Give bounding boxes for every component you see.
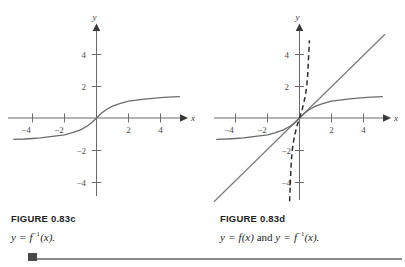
figure-formula-0-83d: y = f(x) and y = f−1(x).	[220, 228, 405, 244]
x-tick-label-2: 2	[329, 125, 334, 135]
x-tick-label-2: 2	[126, 125, 131, 135]
formula-conjunction: and	[257, 231, 273, 243]
footer-rule-line	[36, 258, 402, 260]
x-axis-label: x	[393, 113, 398, 123]
y-tick-label-2: 2	[82, 82, 87, 92]
footer-square-marker-icon	[28, 253, 37, 261]
plot-area-0-83d: x y −4 −2 2 4 4 2	[203, 0, 405, 210]
x-tick-label-4: 4	[158, 125, 163, 135]
x-tick-label--2: −2	[54, 125, 64, 135]
y-tick-label--2: −2	[76, 146, 86, 156]
plot-area-0-83c: x y −4 −2 2 4 4 2	[0, 0, 202, 210]
x-tick-label--2: −2	[257, 125, 267, 135]
formula-lhs: y	[220, 231, 225, 243]
page-footer	[0, 252, 405, 267]
y-tick-label--4: −4	[76, 178, 86, 188]
figure-formula-0-83c: y = f−1(x).	[11, 228, 201, 244]
y-axis-label: y	[92, 12, 97, 22]
x-tick-label--4: −4	[224, 125, 234, 135]
formula-argument: (x).	[40, 231, 55, 243]
formula-equals-2: =	[283, 231, 291, 243]
y-axis-arrow-icon	[296, 24, 304, 32]
x-axis-label: x	[190, 113, 195, 123]
y-axis-arrow-icon	[93, 24, 101, 32]
formula-lhs: y	[11, 231, 16, 243]
x-tick-label-4: 4	[361, 125, 366, 135]
caption-0-83c: FIGURE 0.83c y = f−1(x).	[11, 213, 201, 244]
y-tick-label-4: 4	[82, 50, 87, 60]
formula-exponent: −1	[33, 230, 40, 238]
formula-equals: =	[19, 231, 27, 243]
formula-equals: =	[228, 231, 236, 243]
formula-argument-2: (x).	[304, 231, 319, 243]
x-tick-label--4: −4	[21, 125, 31, 135]
figure-panel-0-83d: x y −4 −2 2 4 4 2	[203, 0, 405, 250]
y-tick-label-2: 2	[285, 82, 290, 92]
figure-panel-0-83c: x y −4 −2 2 4 4 2	[0, 0, 202, 250]
caption-0-83d: FIGURE 0.83d y = f(x) and y = f−1(x).	[220, 213, 405, 244]
x-axis-arrow-icon	[383, 114, 391, 122]
formula-lhs-2: y	[275, 231, 280, 243]
y-axis-label: y	[295, 12, 300, 22]
figure-title-0-83c: FIGURE 0.83c	[11, 213, 201, 225]
x-axis-arrow-icon	[180, 114, 188, 122]
y-tick-label--2: −2	[281, 146, 291, 156]
y-tick-label-4: 4	[285, 50, 290, 60]
graph-svg-0-83d: x y −4 −2 2 4 4 2	[203, 0, 405, 210]
figure-title-0-83d: FIGURE 0.83d	[220, 213, 405, 225]
graph-svg-0-83c: x y −4 −2 2 4 4 2	[0, 0, 202, 210]
formula-argument: (x)	[242, 231, 254, 243]
